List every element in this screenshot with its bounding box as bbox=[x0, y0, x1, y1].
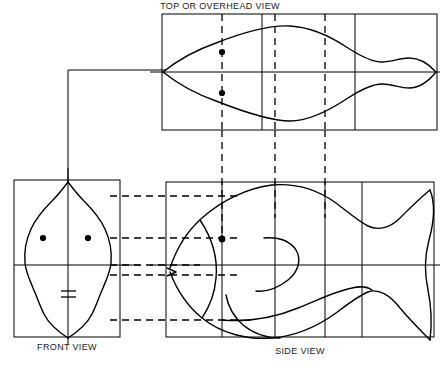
side-view-dorsal-outline bbox=[170, 185, 430, 268]
side-view-gill-cover bbox=[200, 220, 216, 318]
front-view-frame bbox=[14, 180, 120, 337]
front-view-eye-left bbox=[40, 235, 46, 241]
top-view-fish-outline-lower bbox=[163, 72, 436, 121]
front-view-outline-right bbox=[68, 182, 111, 338]
front-view-label: FRONT VIEW bbox=[14, 342, 120, 352]
projection-lines-group bbox=[110, 130, 325, 320]
orthographic-projection-drawing bbox=[0, 0, 440, 365]
drawing-page: TOP OR OVERHEAD VIEW FRONT VIEW SIDE VIE… bbox=[0, 0, 440, 365]
front-view-group bbox=[14, 168, 140, 345]
top-view-group bbox=[150, 14, 440, 130]
miter-projection-line bbox=[68, 70, 166, 182]
front-view-outline-left bbox=[25, 182, 68, 338]
side-view-label: SIDE VIEW bbox=[166, 346, 434, 356]
miter-projection-group bbox=[68, 70, 166, 182]
side-view-group bbox=[150, 182, 440, 340]
top-view-eye-left bbox=[219, 49, 225, 55]
front-view-eye-right bbox=[85, 235, 91, 241]
side-view-frame bbox=[166, 182, 434, 337]
top-view-fish-outline bbox=[163, 26, 436, 72]
top-view-label: TOP OR OVERHEAD VIEW bbox=[0, 1, 440, 11]
top-view-eye-right bbox=[219, 90, 225, 96]
